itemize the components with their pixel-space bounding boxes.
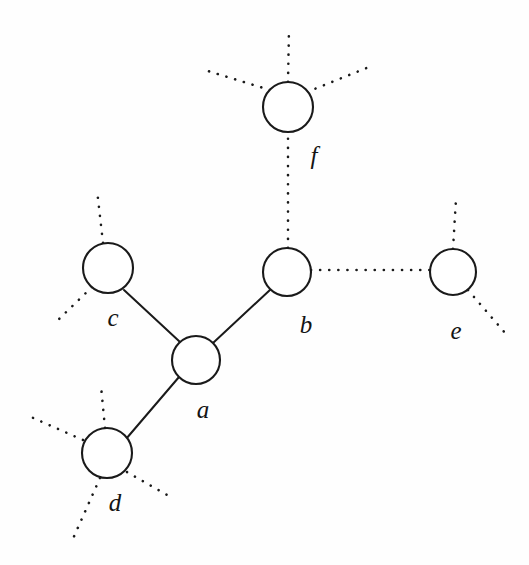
dotted-edge-d-left [31, 417, 83, 440]
dotted-edge-d-down-left [72, 478, 100, 541]
node-circle-d[interactable] [82, 428, 132, 478]
graph-canvas [0, 0, 529, 565]
dotted-edge-c-down-left [57, 287, 92, 321]
solid-edge-a-c [124, 290, 180, 342]
node-circle-e[interactable] [430, 249, 476, 295]
node-layer [82, 82, 476, 478]
dotted-edge-e-down-right [468, 290, 506, 334]
node-circle-f[interactable] [263, 82, 313, 132]
dotted-edge-d-down-right [127, 472, 174, 499]
node-circle-a[interactable] [172, 336, 220, 384]
dotted-edge-c-up [97, 190, 103, 243]
dotted-edge-d-up [101, 386, 105, 428]
node-label-d: d [109, 489, 122, 517]
node-label-a: a [197, 396, 210, 424]
dotted-edge-f-up-right [307, 67, 369, 92]
solid-edge-a-d [126, 377, 179, 439]
node-label-f: f [311, 142, 318, 170]
node-label-e: e [450, 317, 461, 345]
node-circle-b[interactable] [263, 248, 311, 296]
node-circle-c[interactable] [83, 243, 133, 293]
graph-diagram: abcdef [0, 0, 529, 565]
dotted-edge-f-up [288, 28, 289, 82]
dotted-edge-e-up [453, 199, 456, 249]
solid-edge-a-b [213, 289, 271, 343]
node-label-c: c [107, 304, 118, 332]
dotted-edge-f-up-left [208, 71, 270, 90]
node-label-b: b [300, 311, 313, 339]
